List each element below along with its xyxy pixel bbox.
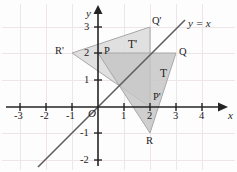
y-tick-label-neg2: -2 bbox=[80, 155, 89, 166]
axis-lines bbox=[6, 14, 218, 166]
origin-label: O bbox=[88, 108, 96, 119]
y-axis-label: y bbox=[86, 8, 91, 19]
x-axis-arrow bbox=[218, 103, 228, 112]
x-tick-label-3: 3 bbox=[173, 111, 178, 122]
vertex-label-q: Q bbox=[179, 47, 187, 58]
y-tick-label-neg1: -1 bbox=[80, 128, 89, 139]
x-tick-label-neg3: -3 bbox=[14, 111, 23, 122]
x-axis-label: x bbox=[228, 110, 233, 121]
y-tick-label-1: 1 bbox=[84, 75, 89, 86]
coordinate-plane-figure: -3 -2 -1 1 2 3 4 3 2 1 -1 -2 x y O y = x… bbox=[0, 0, 237, 172]
x-tick-label-neg2: -2 bbox=[40, 111, 49, 122]
vertex-label-r-prime: R' bbox=[55, 46, 64, 57]
x-tick-label-1: 1 bbox=[121, 111, 126, 122]
y-tick-label-2: 2 bbox=[84, 48, 89, 59]
triangle-t bbox=[98, 53, 176, 133]
region-label-t: T bbox=[160, 68, 167, 80]
vertex-label-r: R bbox=[146, 136, 153, 147]
region-label-t-prime: T' bbox=[128, 39, 137, 51]
vertex-label-p-prime: P' bbox=[153, 92, 161, 103]
y-axis-arrow bbox=[94, 5, 103, 14]
vertex-label-q-prime: Q' bbox=[152, 16, 161, 27]
vertex-label-p: P bbox=[104, 46, 110, 57]
x-tick-label-2: 2 bbox=[147, 111, 152, 122]
y-tick-label-3: 3 bbox=[84, 22, 89, 33]
line-equation-label: y = x bbox=[188, 18, 211, 29]
x-tick-label-4: 4 bbox=[199, 111, 204, 122]
x-tick-label-neg1: -1 bbox=[66, 111, 75, 122]
